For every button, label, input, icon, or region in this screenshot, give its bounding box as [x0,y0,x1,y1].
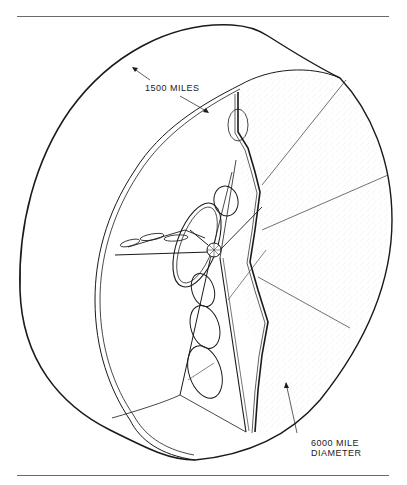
diameter-label-line-2: DIAMETER [311,448,362,458]
outer-top-edge [232,25,340,78]
far-interior-surface [238,73,388,438]
horizontal-spoke-bottom [115,252,210,255]
bottom-rule [17,475,389,476]
hub-torus-ring [163,197,231,293]
diameter-label-line-1: 6000 MILE [311,438,362,448]
habitat-cutaway-drawing [0,0,407,485]
interior-diagonal-2 [188,363,214,380]
spoke-panel-base [180,395,246,432]
hub-axle [190,230,208,245]
hub-spokes [207,243,221,257]
spoke-panel-left-edge [180,260,210,395]
width-dimension-leader-2 [180,96,208,112]
diameter-dimension-label: 6000 MILE DIAMETER [311,438,362,458]
inner-rim-inner [100,89,240,455]
outer-rim-outline [20,25,232,460]
spoke-panel-right-edge [220,258,246,432]
width-dimension-label: 1500 MILES [145,83,200,93]
spoke-hole-3 [181,341,228,402]
